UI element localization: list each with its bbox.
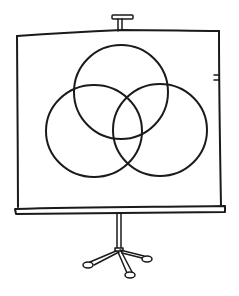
tripod-foot-right <box>142 256 152 262</box>
tripod-foot-center <box>125 272 135 278</box>
venn-diagram <box>46 45 207 177</box>
hanging-knob <box>112 15 133 31</box>
tripod-legs <box>83 250 152 278</box>
venn-circle-right <box>113 84 207 176</box>
projector-screen-drawing <box>0 0 239 296</box>
projector-screen-illustration: projector screen on tripod showing three… <box>0 0 239 296</box>
tripod-foot-left <box>83 262 93 268</box>
screen-bottom-bar <box>15 206 225 214</box>
stand-pole <box>115 214 123 251</box>
